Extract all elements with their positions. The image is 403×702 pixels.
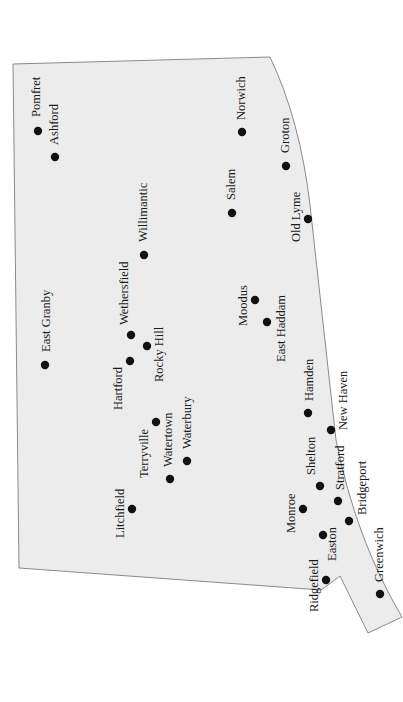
- town-marker-icon: [251, 296, 259, 304]
- town-label: Greenwich: [372, 526, 386, 582]
- town-marker-icon: [143, 342, 151, 350]
- town-label: New Haven: [336, 370, 350, 430]
- town-label: Watertown: [161, 412, 175, 467]
- town-label: Stratford: [333, 445, 347, 490]
- town-marker-icon: [263, 318, 271, 326]
- town-label: Rocky Hill: [152, 326, 166, 382]
- town-label: Salem: [224, 168, 238, 200]
- town-marker-icon: [282, 162, 290, 170]
- town-marker-icon: [322, 576, 330, 584]
- town-label: Pomfret: [29, 76, 43, 117]
- town-marker-icon: [34, 127, 42, 135]
- town-label: Ashford: [47, 103, 61, 145]
- town-label: Moodus: [236, 285, 250, 326]
- town-label: East Haddam: [274, 295, 288, 362]
- town-marker-icon: [127, 331, 135, 339]
- state-outline: [13, 57, 402, 633]
- town-marker-icon: [51, 153, 59, 161]
- town-marker-icon: [376, 590, 384, 598]
- connecticut-map: PomfretAshfordNorwichGrotonSalemOld Lyme…: [0, 0, 403, 702]
- town-label: Groton: [278, 117, 292, 153]
- town-marker-icon: [299, 505, 307, 513]
- town-marker-icon: [183, 457, 191, 465]
- town-marker-icon: [334, 497, 342, 505]
- town-marker-icon: [345, 517, 353, 525]
- town-label: Old Lyme: [289, 191, 303, 242]
- town-marker-icon: [166, 475, 174, 483]
- town-label: Easton: [325, 526, 339, 561]
- town-marker-icon: [238, 128, 246, 136]
- town-label: Waterbury: [180, 396, 194, 449]
- town-marker-icon: [316, 482, 324, 490]
- town-label: Shelton: [304, 436, 318, 475]
- town-marker-icon: [41, 361, 49, 369]
- town-label: Hamden: [302, 358, 316, 401]
- town-label: Norwich: [234, 76, 248, 120]
- town-marker-icon: [327, 426, 335, 434]
- town-marker-icon: [128, 505, 136, 513]
- town-label: East Granby: [39, 289, 53, 352]
- town-label: Litchfield: [113, 488, 127, 538]
- town-label: Terryville: [137, 428, 151, 478]
- town-label: Monroe: [284, 493, 298, 533]
- town-marker-icon: [304, 215, 312, 223]
- town-marker-icon: [140, 251, 148, 259]
- town-label: Hartford: [111, 366, 125, 410]
- town-marker-icon: [228, 209, 236, 217]
- town-marker-icon: [304, 409, 312, 417]
- town-marker-icon: [126, 357, 134, 365]
- town-marker-icon: [152, 418, 160, 426]
- town-label: Wethersfield: [117, 261, 131, 325]
- town-label: Willimantic: [136, 182, 150, 242]
- town-label: Ridgefield: [307, 558, 321, 612]
- town-label: Bridgeport: [355, 460, 369, 515]
